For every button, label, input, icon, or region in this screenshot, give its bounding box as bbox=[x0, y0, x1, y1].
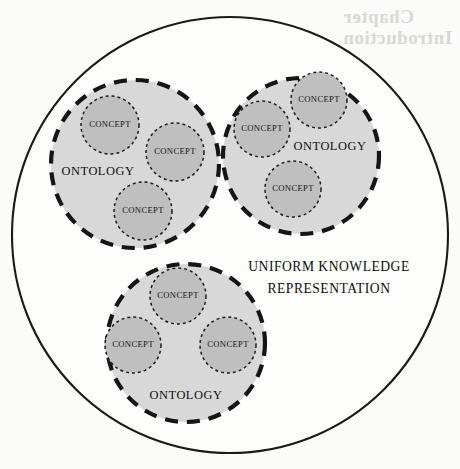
ontology-group-top-left: ONTOLOGY CONCEPT CONCEPT CONCEPT bbox=[51, 80, 219, 248]
diagram-canvas: Chapter Introduction ONTOLOGY CONCEPT CO… bbox=[0, 0, 460, 469]
ontology-label-top-left: ONTOLOGY bbox=[61, 164, 134, 178]
concept-label-top-left-3: CONCEPT bbox=[122, 205, 164, 215]
concept-label-bottom-3: CONCEPT bbox=[207, 339, 249, 349]
concept-label-top-left-2: CONCEPT bbox=[154, 146, 196, 156]
concept-label-top-right-2: CONCEPT bbox=[241, 123, 283, 133]
concept-label-top-left-1: CONCEPT bbox=[89, 119, 131, 129]
concept-label-top-right-1: CONCEPT bbox=[298, 94, 340, 104]
ontology-group-bottom: ONTOLOGY CONCEPT CONCEPT CONCEPT bbox=[105, 264, 265, 422]
uniform-knowledge-representation-diagram: ONTOLOGY CONCEPT CONCEPT CONCEPT ONTOLOG… bbox=[0, 0, 460, 469]
universe-label-line-1: UNIFORM KNOWLEDGE bbox=[248, 259, 409, 274]
concept-label-top-right-3: CONCEPT bbox=[272, 183, 314, 193]
universe-label-line-2: REPRESENTATION bbox=[268, 281, 391, 296]
ontology-label-top-right: ONTOLOGY bbox=[293, 139, 366, 153]
concept-label-bottom-1: CONCEPT bbox=[157, 290, 199, 300]
ontology-label-bottom: ONTOLOGY bbox=[149, 388, 222, 402]
concept-label-bottom-2: CONCEPT bbox=[112, 339, 154, 349]
